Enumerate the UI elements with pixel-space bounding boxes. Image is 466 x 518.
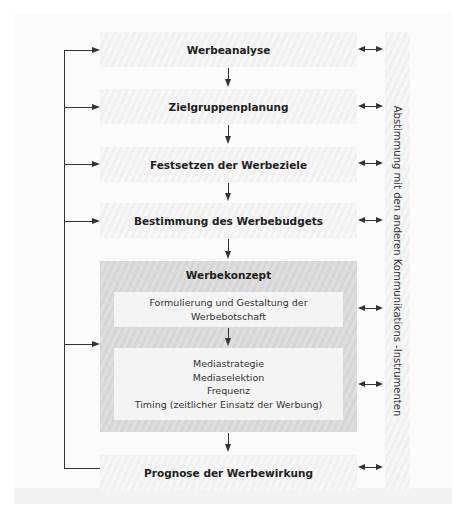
arrow-down-icon — [225, 193, 231, 201]
feedback-connector — [64, 50, 94, 51]
step-label: Prognose der Werbewirkung — [144, 467, 313, 479]
media-line: Mediastrategie — [193, 357, 264, 371]
bidirectional-arrow-icon — [358, 103, 383, 110]
bottom-band — [14, 488, 452, 504]
feedback-connector — [64, 107, 94, 108]
step-prognose: Prognose der Werbewirkung — [100, 455, 357, 490]
arrow-down-icon — [225, 444, 231, 452]
arrow-down-icon — [225, 136, 231, 144]
werbebotschaft-box: Formulierung und Gestaltung der Werbebot… — [114, 292, 343, 327]
step-werbebudget: Bestimmung des Werbebudgets — [100, 203, 357, 238]
media-box: Mediastrategie Mediaselektion Frequenz T… — [114, 348, 343, 420]
arrow-down-icon — [225, 79, 231, 87]
bidirectional-arrow-icon — [358, 46, 383, 53]
bidirectional-arrow-icon — [358, 381, 383, 388]
werbekonzept-title: Werbekonzept — [100, 269, 357, 281]
feedback-line — [64, 50, 65, 468]
bidirectional-arrow-icon — [358, 305, 383, 312]
step-label: Werbeanalyse — [187, 44, 271, 56]
bidirectional-arrow-icon — [358, 217, 383, 224]
step-werbeziele: Festsetzen der Werbeziele — [100, 147, 357, 182]
arrow-right-icon — [92, 218, 100, 224]
arrow-right-icon — [92, 161, 100, 167]
bidirectional-arrow-icon — [358, 464, 383, 471]
arrow-down-icon — [225, 338, 231, 346]
werbebotschaft-line: Werbebotschaft — [191, 310, 266, 324]
feedback-connector — [64, 164, 94, 165]
step-werbeanalyse: Werbeanalyse — [100, 32, 357, 67]
media-line: Timing (zeitlicher Einsatz der Werbung) — [135, 398, 323, 412]
arrow-right-icon — [92, 104, 100, 110]
step-label: Bestimmung des Werbebudgets — [134, 215, 323, 227]
step-label: Festsetzen der Werbeziele — [150, 159, 307, 171]
bidirectional-arrow-icon — [358, 160, 383, 167]
feedback-connector — [64, 221, 94, 222]
arrow-right-icon — [92, 47, 100, 53]
werbekonzept-box: Werbekonzept Formulierung und Gestaltung… — [100, 261, 357, 432]
media-line: Frequenz — [207, 384, 250, 398]
coordination-label: Abstimmung mit den anderen Kommunikation… — [392, 106, 403, 416]
step-label: Zielgruppenplanung — [169, 101, 289, 113]
arrow-down-icon — [225, 251, 231, 259]
werbebotschaft-line: Formulierung und Gestaltung der — [149, 296, 307, 310]
step-zielgruppenplanung: Zielgruppenplanung — [100, 89, 357, 124]
arrow-right-icon — [92, 341, 100, 347]
feedback-line-bottom — [64, 468, 100, 469]
media-line: Mediaselektion — [193, 371, 265, 385]
feedback-connector — [64, 344, 94, 345]
